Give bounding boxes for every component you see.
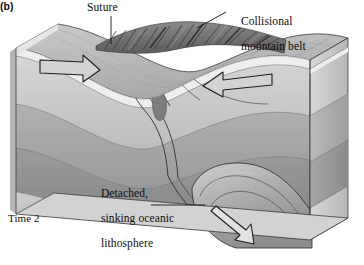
label-belt-line1: Collisional [241, 15, 293, 27]
label-detached-sinking-lithosphere: Detached, sinking oceanic lithosphere [89, 174, 174, 262]
label-slab-line1: Detached, [101, 187, 148, 199]
label-slab-line2: sinking oceanic [101, 212, 174, 224]
block-right-side-face [310, 38, 348, 240]
label-slab-line3: lithosphere [101, 237, 153, 249]
figure-container: Suture Collisional mountain belt Detache… [0, 0, 364, 265]
label-belt-line2: mountain belt [241, 40, 306, 52]
label-collisional-mountain-belt: Collisional mountain belt [229, 2, 306, 65]
label-time-stage: Time 2 [8, 212, 40, 225]
block-diagram-illustration [0, 0, 364, 265]
label-suture: Suture [87, 1, 118, 14]
